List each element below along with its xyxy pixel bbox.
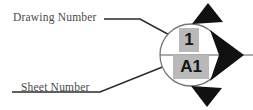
drawing-number-value: 1 [179, 28, 199, 52]
triangle-up-left-arrowhead-icon [192, 3, 223, 24]
drawing-number-label: Drawing Number [13, 11, 97, 23]
sheet-number-label: Sheet Number [21, 81, 90, 93]
triangle-down-left-arrowhead-icon [191, 86, 222, 107]
sheet-number-value: A1 [173, 55, 209, 79]
